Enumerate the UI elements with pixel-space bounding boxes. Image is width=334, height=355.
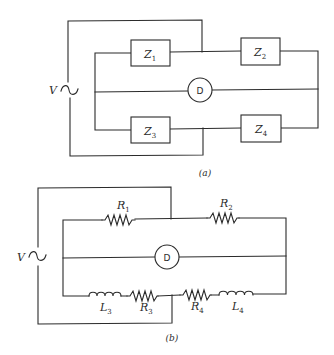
source-label-a: V <box>49 84 58 97</box>
bottom-branch-wire-a <box>170 128 241 129</box>
resistor-r2 <box>207 213 239 223</box>
bottom-mid-wire-b <box>121 295 219 296</box>
resistor-r3 <box>127 291 158 301</box>
caption-b: (b) <box>166 333 179 343</box>
resistor-r1 <box>102 215 135 225</box>
inductor-l3 <box>89 292 121 296</box>
l4-label: L4 <box>231 300 244 315</box>
top-branch-wire-b <box>135 218 207 219</box>
source-label-b: V <box>17 251 26 264</box>
circuit-a: V Z1 Z2 Z3 Z4 D (a) <box>49 20 318 178</box>
r4-label: R4 <box>190 300 204 315</box>
inductor-l4 <box>219 291 253 295</box>
ac-source-icon-a <box>61 86 78 95</box>
source-loop-b <box>38 187 171 247</box>
r2-label: R2 <box>219 197 233 212</box>
detector-label-a: D <box>197 86 204 96</box>
r1-label: R1 <box>116 199 130 214</box>
circuit-b: V R1 R2 L3 R3 R4 L4 D (b) <box>17 187 286 343</box>
ac-source-icon-b <box>29 252 46 261</box>
resistor-r4 <box>180 290 211 300</box>
detector-label-b: D <box>164 253 171 263</box>
bridge-circuit-diagrams: V Z1 Z2 Z3 Z4 D (a) V <box>0 0 334 355</box>
caption-a: (a) <box>199 168 212 178</box>
l3-label: L3 <box>99 301 112 316</box>
r3-label: R3 <box>139 301 153 316</box>
top-branch-wire-a <box>170 51 241 52</box>
